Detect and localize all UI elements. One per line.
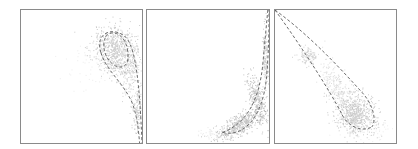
scatter-plot-1 [21, 10, 142, 143]
scatter-panel-2 [146, 9, 270, 144]
dashed-boundary-curve [100, 32, 142, 143]
scatter-panel-1 [20, 9, 143, 144]
scatter-plot-2 [147, 10, 269, 143]
scatter-panel-3 [274, 9, 397, 144]
point-cluster [324, 79, 386, 143]
scatter-plot-3 [275, 10, 396, 143]
point-cluster [292, 45, 316, 68]
dashed-boundary-curve [275, 10, 374, 127]
dashed-boundary-curve [223, 10, 269, 133]
